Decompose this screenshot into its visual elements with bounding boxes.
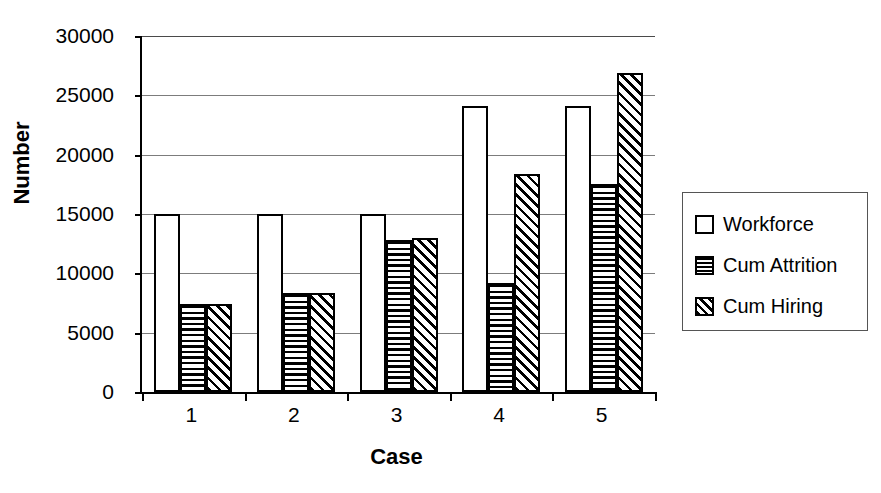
bar-cum-hiring-case-4 xyxy=(514,174,540,392)
y-axis-tick-label: 10000 xyxy=(14,262,114,283)
bar-workforce-case-5 xyxy=(565,106,591,392)
legend-swatch-icon xyxy=(695,256,714,275)
bar-cum-hiring-case-2 xyxy=(309,293,335,392)
bar-workforce-case-1 xyxy=(154,214,180,392)
bar-workforce-case-2 xyxy=(257,214,283,392)
gridline xyxy=(142,95,655,96)
bar-cum-attrition-case-3 xyxy=(386,240,412,392)
x-axis-tick xyxy=(655,392,657,401)
legend-item-cum-hiring[interactable]: Cum Hiring xyxy=(695,287,867,325)
x-axis-tick xyxy=(450,392,452,401)
y-axis-tick-label: 5000 xyxy=(14,322,114,343)
y-axis-tick-label: 25000 xyxy=(14,84,114,105)
y-axis-tick xyxy=(135,392,142,394)
bar-cum-attrition-case-5 xyxy=(591,184,617,392)
y-axis-tick xyxy=(135,214,142,216)
gridline xyxy=(142,36,655,37)
bar-cum-hiring-case-5 xyxy=(617,73,643,392)
legend-label: Workforce xyxy=(723,214,814,234)
x-axis-title: Case xyxy=(140,446,653,468)
legend-item-workforce[interactable]: Workforce xyxy=(695,205,867,243)
bar-cum-attrition-case-2 xyxy=(283,293,309,392)
y-axis-tick xyxy=(135,333,142,335)
legend-label: Cum Attrition xyxy=(723,255,837,275)
y-axis-tick xyxy=(135,155,142,157)
legend-label: Cum Hiring xyxy=(723,296,823,316)
y-axis-tick-label: 30000 xyxy=(14,25,114,46)
x-axis-tick xyxy=(552,392,554,401)
x-axis-tick-label: 5 xyxy=(562,404,642,425)
bar-cum-hiring-case-1 xyxy=(206,304,232,392)
bar-cum-attrition-case-4 xyxy=(488,283,514,392)
legend-item-cum-attrition[interactable]: Cum Attrition xyxy=(695,246,867,284)
x-axis-tick-label: 2 xyxy=(254,404,334,425)
bar-workforce-case-4 xyxy=(462,106,488,392)
y-axis-tick-label: 20000 xyxy=(14,144,114,165)
bar-chart: Number 050001000015000200002500030000 Ca… xyxy=(0,0,881,493)
bar-cum-hiring-case-3 xyxy=(412,238,438,392)
x-axis-tick-label: 1 xyxy=(151,404,231,425)
y-axis-tick xyxy=(135,36,142,38)
y-axis-tick-label: 0 xyxy=(14,381,114,402)
legend-swatch-icon xyxy=(695,215,714,234)
y-axis-tick xyxy=(135,273,142,275)
bar-cum-attrition-case-1 xyxy=(180,304,206,392)
y-axis-tick xyxy=(135,95,142,97)
x-axis-tick-label: 3 xyxy=(357,404,437,425)
legend-swatch-icon xyxy=(695,297,714,316)
plot-area xyxy=(140,36,655,394)
x-axis-tick xyxy=(347,392,349,401)
y-axis-tick-labels: 050001000015000200002500030000 xyxy=(14,0,114,493)
y-axis-tick-label: 15000 xyxy=(14,203,114,224)
bar-workforce-case-3 xyxy=(360,214,386,392)
x-axis-tick xyxy=(245,392,247,401)
x-axis-tick-label: 4 xyxy=(459,404,539,425)
chart-legend: WorkforceCum AttritionCum Hiring xyxy=(682,192,868,331)
x-axis-tick xyxy=(142,392,144,401)
